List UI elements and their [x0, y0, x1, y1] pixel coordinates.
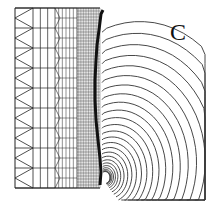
mesh-diagonal [55, 158, 60, 168]
mesh-diagonal [55, 128, 60, 138]
mesh-diagonal [55, 18, 60, 28]
mesh-diagonal [55, 178, 60, 188]
mesh-diagonal [15, 18, 33, 28]
contour-line [102, 125, 153, 201]
mesh-diagonal [55, 148, 60, 158]
mesh-diagonal [15, 88, 33, 98]
mesh-diagonal [15, 98, 33, 108]
mesh-diagonal [15, 28, 33, 38]
mesh-diagonal [15, 118, 33, 128]
mesh-diagonal [15, 158, 33, 168]
contour-lines [102, 22, 205, 200]
mesh-diagonal [55, 98, 60, 108]
mesh-diagonal [15, 108, 33, 118]
mesh-diagonal [55, 88, 60, 98]
mesh-diagonal [15, 148, 33, 158]
mesh-diagonal [55, 38, 60, 48]
mesh-diagonal [15, 178, 33, 188]
finite-element-mesh [15, 8, 100, 188]
mesh-diagonal [55, 8, 60, 18]
mesh-diagonal [55, 108, 60, 118]
mesh-diagonal [55, 28, 60, 38]
mesh-diagonal [15, 68, 33, 78]
mesh-diagonal [15, 138, 33, 148]
mesh-diagonal [15, 38, 33, 48]
mesh-diagonal [15, 168, 33, 178]
panel-label: C [170, 20, 186, 44]
mesh-diagonal [55, 118, 60, 128]
mesh-diagonal [15, 8, 33, 18]
mesh-diagonal [55, 168, 60, 178]
mesh-diagonal [15, 58, 33, 68]
mesh-diagonal [55, 58, 60, 68]
boundary-curve [95, 10, 103, 185]
mesh-diagonal [55, 78, 60, 88]
mesh-diagonal [15, 48, 33, 58]
mesh-diagonal [55, 48, 60, 58]
mesh-diagonal [55, 138, 60, 148]
mesh-diagonal [15, 128, 33, 138]
mesh-diagonal [15, 78, 33, 88]
mesh-diagonal [55, 68, 60, 78]
